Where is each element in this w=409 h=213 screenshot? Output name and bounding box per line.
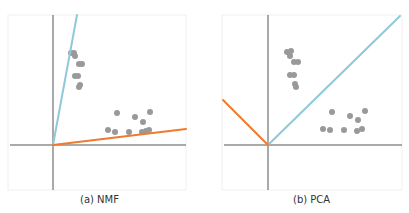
data-point xyxy=(114,110,120,116)
data-point xyxy=(362,108,368,114)
data-point xyxy=(291,72,297,78)
figure-canvas xyxy=(0,0,409,213)
data-point xyxy=(126,129,132,135)
data-point xyxy=(341,127,347,133)
panel-nmf xyxy=(8,15,186,190)
data-point xyxy=(79,61,85,67)
data-point xyxy=(347,113,353,119)
data-point xyxy=(76,84,82,90)
data-point xyxy=(293,84,299,90)
panel-frame xyxy=(8,15,186,190)
data-point xyxy=(320,126,326,132)
data-point xyxy=(132,114,138,120)
caption-nmf: (a) NMF xyxy=(80,194,119,205)
data-point xyxy=(75,73,81,79)
data-point xyxy=(140,119,146,125)
data-point xyxy=(288,48,294,54)
data-point xyxy=(359,126,365,132)
data-point xyxy=(105,127,111,133)
data-point xyxy=(146,127,152,133)
data-point xyxy=(112,129,118,135)
data-point xyxy=(295,59,301,65)
data-point xyxy=(147,109,153,115)
data-point xyxy=(329,109,335,115)
data-point xyxy=(327,127,333,133)
panel-pca xyxy=(222,15,402,190)
caption-pca: (b) PCA xyxy=(293,194,330,205)
data-point xyxy=(72,53,78,59)
data-point xyxy=(287,53,293,59)
data-point xyxy=(355,117,361,123)
